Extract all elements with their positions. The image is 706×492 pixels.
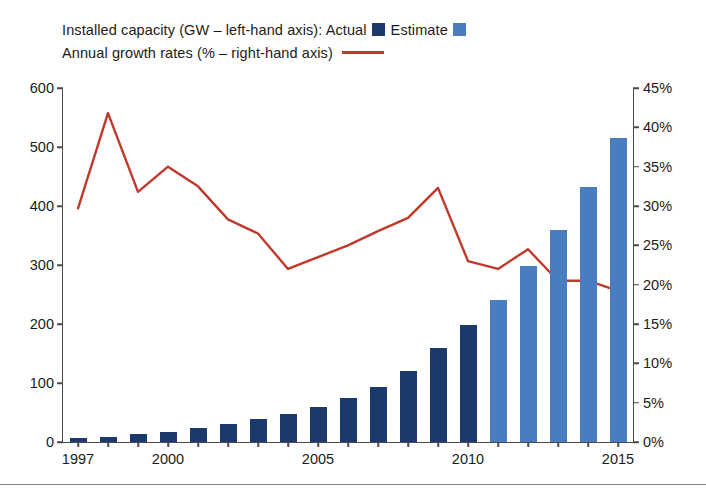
y-axis-tick-mark — [57, 264, 63, 266]
y-axis-tick-mark — [57, 146, 63, 148]
legend-label-estimate: Estimate — [391, 22, 448, 38]
y2-axis-tick-mark — [633, 284, 639, 286]
x-axis-tick-mark — [137, 442, 139, 447]
legend-line-growth-icon — [342, 51, 384, 54]
bar-estimate-2013 — [550, 230, 567, 442]
y-axis-tick-mark — [57, 382, 63, 384]
bar-actual-2006 — [340, 398, 357, 442]
y2-axis-tick-mark — [633, 166, 639, 168]
x-axis-tick-mark — [587, 442, 589, 447]
x-axis-tick-mark — [377, 442, 379, 447]
y2-axis-tick-mark — [633, 402, 639, 404]
bar-estimate-2014 — [580, 187, 597, 442]
y-axis-tick-mark — [57, 87, 63, 89]
x-axis-tick-label: 1997 — [62, 451, 94, 467]
y2-axis-tick-mark — [633, 245, 639, 247]
x-axis-tick-mark — [167, 442, 169, 447]
x-axis-tick-mark — [437, 442, 439, 447]
y2-axis-tick-mark — [633, 323, 639, 325]
legend-label-annual-growth: Annual growth rates (% – right-hand axis… — [62, 45, 333, 61]
bar-actual-2003 — [250, 419, 267, 442]
plot-area: 01002003004005006000%5%10%15%20%25%30%35… — [62, 88, 634, 443]
bar-actual-2008 — [400, 371, 417, 442]
y-axis-tick-mark — [57, 205, 63, 207]
x-axis-tick-mark — [557, 442, 559, 447]
y-axis-tick-mark — [57, 441, 63, 443]
x-axis-tick-mark — [347, 442, 349, 447]
legend-swatch-actual-icon — [372, 23, 385, 36]
y2-axis-tick-mark — [633, 205, 639, 207]
growth-rate-line-series — [63, 88, 633, 442]
x-axis-tick-mark — [227, 442, 229, 447]
legend-swatch-estimate-icon — [453, 23, 466, 36]
bar-actual-2004 — [280, 414, 297, 442]
bar-estimate-2012 — [520, 266, 537, 442]
bar-estimate-2015 — [610, 138, 627, 442]
x-axis-tick-mark — [497, 442, 499, 447]
chart-figure: Installed capacity (GW – left-hand axis)… — [0, 0, 706, 492]
bar-actual-2005 — [310, 407, 327, 442]
x-axis-tick-mark — [197, 442, 199, 447]
y2-axis-tick-mark — [633, 441, 639, 443]
bar-actual-2010 — [460, 325, 477, 442]
x-axis-tick-mark — [407, 442, 409, 447]
bar-actual-1999 — [130, 434, 147, 442]
x-axis-tick-label: 2005 — [302, 451, 334, 467]
legend-row-growth: Annual growth rates (% – right-hand axis… — [62, 41, 682, 64]
x-axis-tick-mark — [257, 442, 259, 447]
x-axis-tick-mark — [317, 442, 319, 447]
x-axis-tick-label: 2015 — [602, 451, 634, 467]
x-axis-tick-mark — [467, 442, 469, 447]
x-axis-tick-mark — [287, 442, 289, 447]
growth-rate-polyline — [78, 113, 618, 291]
x-axis-tick-mark — [617, 442, 619, 447]
x-axis-tick-mark — [107, 442, 109, 447]
chart-legend: Installed capacity (GW – left-hand axis)… — [62, 18, 682, 64]
bar-actual-2009 — [430, 348, 447, 442]
legend-row-capacity: Installed capacity (GW – left-hand axis)… — [62, 18, 682, 41]
bar-actual-2002 — [220, 424, 237, 442]
footer-divider — [0, 484, 706, 485]
bar-actual-2000 — [160, 432, 177, 442]
y2-axis-tick-mark — [633, 127, 639, 129]
bar-actual-2001 — [190, 428, 207, 442]
x-axis-tick-label: 2000 — [152, 451, 184, 467]
y2-axis-tick-mark — [633, 363, 639, 365]
bar-estimate-2011 — [490, 300, 507, 442]
y2-axis-tick-mark — [633, 87, 639, 89]
x-axis-tick-label: 2010 — [452, 451, 484, 467]
x-axis-tick-mark — [77, 442, 79, 447]
y-axis-tick-mark — [57, 323, 63, 325]
bar-actual-2007 — [370, 387, 387, 442]
legend-label-installed-capacity: Installed capacity (GW – left-hand axis)… — [62, 22, 367, 38]
x-axis-tick-mark — [527, 442, 529, 447]
